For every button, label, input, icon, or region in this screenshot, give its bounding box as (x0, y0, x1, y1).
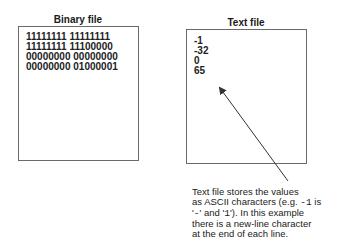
caption-text: ' and ' (200, 207, 225, 218)
caption-text: '). In this example (230, 207, 304, 218)
caption-text: as ASCII characters (e.g. (192, 196, 300, 207)
caption-text: is (312, 196, 322, 207)
annotation-caption: Text file stores the values as ASCII cha… (192, 187, 321, 239)
caption-line: at the end of each line. (192, 229, 321, 239)
